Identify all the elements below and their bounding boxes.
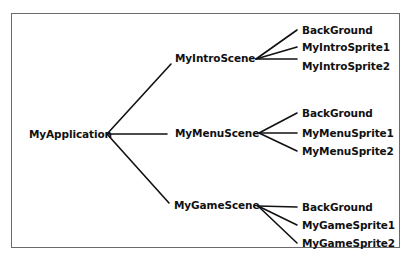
edge-game-s2 [258,206,297,243]
edge-root-game [107,134,169,203]
edge-intro-bg [256,30,297,59]
node-menu-background: BackGround [302,107,373,119]
edge-game-s1 [258,206,297,225]
edge-game-bg [258,206,297,207]
node-menu-sprite1: MyMenuSprite1 [302,127,394,139]
node-game-sprite2: MyGameSprite2 [302,237,395,249]
node-game-sprite1: MyGameSprite1 [302,219,395,231]
edge-root-intro [107,64,171,134]
node-intro-sprite2: MyIntroSprite2 [302,60,390,72]
node-intro-sprite1: MyIntroSprite1 [302,41,390,53]
node-menu-sprite2: MyMenuSprite2 [302,145,394,157]
node-game-background: BackGround [302,201,373,213]
node-intro-scene: MyIntroScene [175,52,255,64]
node-game-scene: MyGameScene [174,199,259,211]
edge-intro-s1 [256,47,297,59]
node-intro-background: BackGround [302,24,373,36]
node-root: MyApplication [29,128,112,140]
edge-menu-bg [259,113,297,133]
node-menu-scene: MyMenuScene [175,127,259,139]
edge-menu-s2 [259,133,297,151]
